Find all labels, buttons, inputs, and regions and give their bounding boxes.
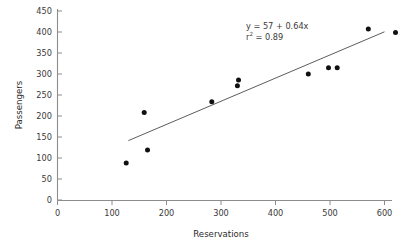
y-tick-label-100: 100	[36, 153, 52, 163]
y-tick-label-150: 150	[36, 132, 52, 142]
x-tick-label-300: 300	[213, 208, 229, 218]
r-squared-text: r2 = 0.89	[246, 31, 283, 42]
y-tick-label-0: 0	[47, 195, 52, 205]
x-axis-title: Reservations	[193, 229, 249, 239]
regression-fit-line	[128, 32, 384, 141]
regression-annotation: y = 57 + 0.64x r2 = 0.89	[246, 21, 309, 42]
y-axis-title: Passengers	[14, 80, 24, 129]
y-tick-label-300: 300	[36, 69, 52, 79]
data-point	[235, 83, 240, 88]
data-point	[393, 30, 398, 35]
x-tick-label-400: 400	[268, 208, 284, 218]
x-axis-ticks	[58, 201, 385, 206]
data-point	[145, 148, 150, 153]
x-tick-label-0: 0	[55, 208, 60, 218]
data-point	[366, 27, 371, 32]
data-point	[124, 161, 129, 166]
x-tick-label-600: 600	[377, 208, 393, 218]
y-axis-tick-labels: 450 400 350 300 250 200 150 100 50 0	[36, 6, 52, 205]
data-point	[306, 72, 311, 77]
data-point-series	[124, 27, 398, 166]
x-tick-label-500: 500	[322, 208, 338, 218]
data-point	[209, 99, 214, 104]
data-point	[142, 110, 147, 115]
axis-spines	[58, 9, 393, 201]
x-tick-label-100: 100	[104, 208, 120, 218]
data-point	[326, 65, 331, 70]
x-tick-label-200: 200	[159, 208, 175, 218]
chart-canvas: 450 400 350 300 250 200 150 100 50 0 0 1…	[0, 0, 399, 251]
y-axis-ticks	[58, 11, 63, 200]
data-point	[236, 77, 241, 82]
r-squared-value: = 0.89	[253, 32, 283, 42]
y-tick-label-200: 200	[36, 111, 52, 121]
scatter-plot-figure: 450 400 350 300 250 200 150 100 50 0 0 1…	[0, 0, 399, 251]
y-tick-label-400: 400	[36, 27, 52, 37]
y-tick-label-50: 50	[42, 174, 52, 184]
y-tick-label-350: 350	[36, 48, 52, 58]
regression-equation-text: y = 57 + 0.64x	[246, 21, 309, 31]
y-tick-label-250: 250	[36, 90, 52, 100]
y-tick-label-450: 450	[36, 6, 52, 16]
x-axis-tick-labels: 0 100 200 300 400 500 600	[55, 208, 392, 218]
data-point	[335, 65, 340, 70]
